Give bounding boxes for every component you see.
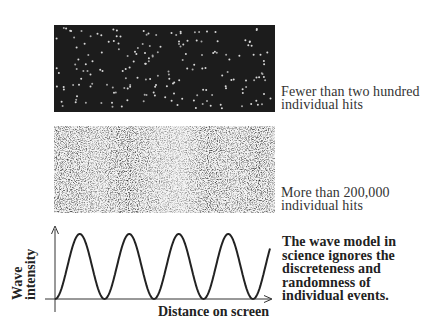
note-line: The wave model in xyxy=(282,235,396,249)
sparse-caption: Fewer than two hundred individual hits xyxy=(281,85,420,111)
caption-line: individual hits xyxy=(281,199,390,212)
dense-noise xyxy=(54,126,275,213)
x-axis-arrow-icon xyxy=(264,296,272,303)
y-axis-arrow-icon xyxy=(52,226,59,234)
x-axis-label: Distance on screen xyxy=(158,304,269,320)
wave-model-note: The wave model in science ignores the di… xyxy=(282,235,396,303)
note-line: randomness of xyxy=(282,276,396,290)
dense-hits-panel xyxy=(54,126,275,213)
wave-curve xyxy=(55,234,270,299)
sparse-hits-panel xyxy=(54,25,275,112)
note-line: individual events. xyxy=(282,289,396,303)
note-line: science ignores the xyxy=(282,249,396,263)
sparse-dots xyxy=(54,25,275,112)
y-axis-label: Wave intensity xyxy=(1,254,51,304)
dense-caption: More than 200,000 individual hits xyxy=(281,186,390,212)
note-line: discreteness and xyxy=(282,262,396,276)
caption-line: individual hits xyxy=(281,98,420,111)
y-label-line: intensity xyxy=(24,249,37,300)
